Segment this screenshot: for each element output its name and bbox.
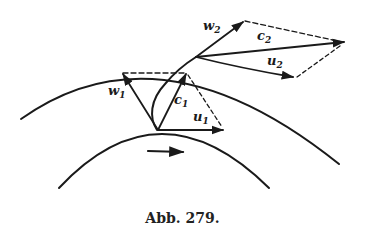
w1-vector (123, 74, 158, 130)
velocity-diagram (0, 0, 365, 244)
label-c2: c2 (257, 29, 271, 45)
outlet-dashed-side (297, 46, 340, 77)
label-w2: w2 (203, 19, 220, 35)
rotation-direction-arrow (148, 151, 183, 152)
inner-wheel-arc (59, 134, 269, 188)
label-u1: u1 (193, 110, 209, 126)
label-c1: c1 (174, 93, 188, 109)
label-w1: w1 (108, 84, 125, 100)
label-u2: u2 (267, 54, 283, 70)
figure-caption: Abb. 279. (0, 210, 365, 226)
